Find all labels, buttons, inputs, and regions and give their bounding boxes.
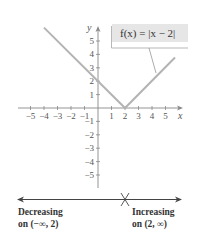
decreasing-interval: on (−∞, 2) [18,218,63,230]
svg-text:−2: −2 [66,111,76,121]
svg-text:−4: −4 [39,111,49,121]
callout-leader [149,48,156,73]
svg-text:1: 1 [90,90,95,100]
svg-text:−3: −3 [84,143,94,153]
increasing-interval: on (2, ∞) [132,218,175,230]
increasing-label-line1: Increasing [132,206,175,218]
svg-text:3: 3 [90,63,95,73]
svg-text:−1: −1 [84,116,94,126]
svg-text:1: 1 [109,111,114,121]
svg-text:4: 4 [90,49,95,59]
svg-text:−3: −3 [53,111,63,121]
svg-text:5: 5 [90,36,95,46]
x-tick-labels: −5 −4 −3 −2 −1 1 2 3 4 5 [26,111,169,121]
svg-text:5: 5 [163,111,168,121]
svg-text:−2: −2 [84,130,94,140]
function-label: f(x) = |x − 2| [120,27,175,40]
x-axis-label: x [177,110,183,121]
decreasing-label: Decreasing on (−∞, 2) [18,206,63,230]
y-axis-label: y [86,22,92,33]
svg-text:−4: −4 [84,157,94,167]
svg-text:3: 3 [136,111,141,121]
svg-text:−5: −5 [84,170,94,180]
svg-text:4: 4 [150,111,155,121]
decreasing-label-line1: Decreasing [18,206,63,218]
increasing-label: Increasing on (2, ∞) [132,206,175,230]
svg-text:−5: −5 [26,111,36,121]
svg-text:2: 2 [123,111,128,121]
